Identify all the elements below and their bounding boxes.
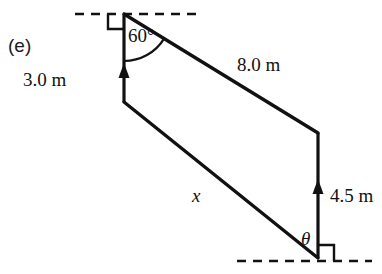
length-label-8m: 8.0 m (237, 55, 280, 74)
segment-x (124, 102, 318, 258)
length-label-x: x (192, 186, 200, 205)
geometry-diagram (0, 0, 382, 274)
length-label-3m: 3.0 m (23, 70, 66, 89)
angle-label-60: 60° (128, 26, 155, 45)
angle-label-theta: θ (301, 229, 310, 248)
part-label: (e) (8, 36, 31, 55)
figure-canvas: (e) 3.0 m 8.0 m 4.5 m 60° x θ (0, 0, 382, 274)
arrow-head-45m-icon (313, 179, 324, 194)
right-angle-marker-bottom-icon (318, 245, 334, 261)
length-label-45m: 4.5 m (330, 186, 373, 205)
right-angle-marker-top-icon (108, 14, 124, 29)
arrow-head-3m-icon (119, 63, 130, 78)
